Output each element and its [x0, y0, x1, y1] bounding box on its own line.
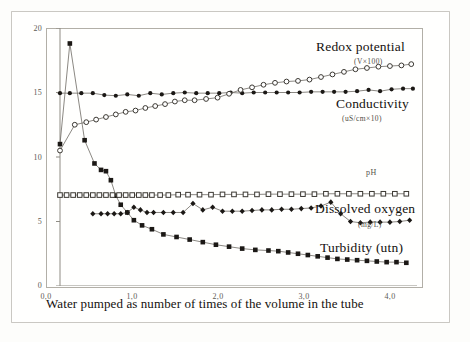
figure-caption: Water pumped as number of times of the v…: [46, 296, 446, 312]
ph-label: pH: [366, 168, 377, 177]
series-0: [58, 41, 409, 265]
figure-page: 20 15 10 5 0 0,0 1,0 2,0 3,0 4,0 Redox p…: [0, 0, 470, 342]
dissolved-oxygen-unit: (mg/L): [358, 220, 382, 229]
y-tick-10: 10: [22, 153, 42, 162]
conductivity-label: Conductivity: [336, 96, 409, 112]
y-tick-15: 15: [22, 88, 42, 97]
y-tick-5: 5: [22, 217, 42, 226]
dissolved-oxygen-label: Dissolved oxygen: [315, 201, 415, 217]
conductivity-unit: (uS/cm×10): [342, 114, 382, 123]
y-tick-20: 20: [22, 24, 42, 33]
y-tick-0: 0: [22, 281, 42, 290]
turbidity-label: Turbidity (utn): [320, 240, 403, 256]
redox-unit: (V×100): [354, 57, 383, 66]
series-2: [58, 191, 409, 197]
redox-label: Redox potential: [316, 39, 405, 55]
